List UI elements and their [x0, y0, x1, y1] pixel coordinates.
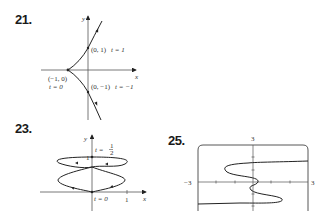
graph-21: x y (0, 1) t = 1 (−1, 0) t = 0 (0, −1) t…: [0, 0, 324, 211]
label-frac-den: 2: [110, 149, 114, 157]
y-max-label: 3: [251, 135, 255, 143]
y-axis-label: y: [81, 15, 86, 23]
label-point-top: (0, 1): [91, 46, 107, 54]
y-tick-1: 1: [86, 154, 90, 162]
label-param-top-23: t =: [95, 146, 104, 154]
x-tick-1: 1: [125, 196, 129, 204]
label-param-bottom: t = −1: [115, 83, 133, 91]
x-max-label: 3: [311, 179, 315, 187]
x-axis-label: x: [134, 73, 139, 81]
label-point-bottom: (0, −1): [91, 83, 111, 91]
label-point-cusp: (−1, 0): [48, 75, 68, 83]
x-min-label: −3: [184, 179, 192, 187]
label-param-top: t = 1: [111, 46, 125, 54]
label-param-cusp: t = 0: [49, 83, 63, 91]
label-param-bottom-23: t = 0: [94, 195, 108, 203]
x-axis-label-23: x: [142, 195, 147, 203]
y-axis-label-23: y: [83, 135, 88, 143]
